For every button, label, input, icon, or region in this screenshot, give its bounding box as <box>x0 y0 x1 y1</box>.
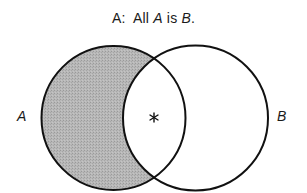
label-b: B <box>277 108 286 124</box>
label-a: A <box>17 108 26 124</box>
venn-diagram <box>0 0 307 193</box>
